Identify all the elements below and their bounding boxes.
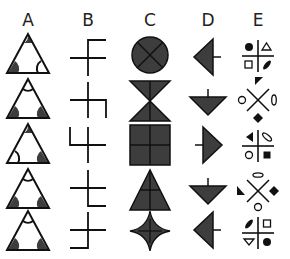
figure-b4 <box>70 170 106 206</box>
figure-c5 <box>130 211 170 251</box>
figure-c2 <box>130 81 170 121</box>
figure-e4 <box>237 173 279 211</box>
figure-a3 <box>7 124 49 163</box>
figure-b3 <box>70 127 106 163</box>
figure-e1 <box>242 40 274 72</box>
figure-d4 <box>190 178 226 204</box>
figure-d2 <box>190 89 226 115</box>
figure-b2 <box>70 82 106 118</box>
figure-a5 <box>7 211 49 250</box>
figure-b5 <box>70 212 106 248</box>
figure-grid <box>0 0 290 259</box>
figure-d5 <box>194 212 221 248</box>
figure-c3 <box>130 125 170 165</box>
figure-e5 <box>242 217 274 249</box>
figure-a4 <box>7 169 49 208</box>
figure-c1 <box>132 37 168 73</box>
figure-c4 <box>130 170 170 210</box>
figure-d3 <box>195 127 222 163</box>
figure-a2 <box>7 79 49 118</box>
figure-d1 <box>194 39 221 75</box>
figure-e3 <box>242 130 274 162</box>
figure-e2 <box>239 77 277 123</box>
figure-a1 <box>7 34 49 73</box>
figure-b1 <box>70 40 106 76</box>
filled-circle-icon <box>245 43 253 51</box>
